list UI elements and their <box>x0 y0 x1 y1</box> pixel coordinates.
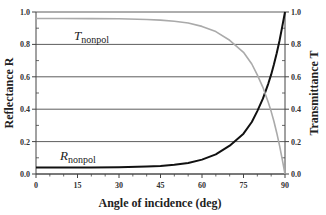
y-right-tick-label: 0.6 <box>291 73 301 82</box>
fresnel-chart: 0.00.20.40.60.81.00.00.20.40.60.81.00153… <box>0 0 326 215</box>
x-tick-label: 60 <box>198 181 206 190</box>
t-nonpol-label: Tnonpol <box>74 28 109 45</box>
y-left-tick-label: 0.8 <box>20 40 30 49</box>
y-left-tick-label: 0.6 <box>20 73 30 82</box>
x-tick-label: 0 <box>34 181 38 190</box>
y-left-tick-label: 0.2 <box>20 138 30 147</box>
x-tick-label: 90 <box>281 181 289 190</box>
y-right-tick-label: 0.8 <box>291 40 301 49</box>
x-axis-title: Angle of incidence (deg) <box>99 196 222 210</box>
x-tick-label: 75 <box>240 181 248 190</box>
r-nonpol-label: Rnonpol <box>59 148 96 165</box>
y-left-tick-label: 1.0 <box>20 8 30 17</box>
y-axis-left-title: Reflectance R <box>2 57 16 128</box>
y-right-tick-label: 1.0 <box>291 8 301 17</box>
y-right-tick-label: 0.0 <box>291 170 301 179</box>
y-right-tick-label: 0.2 <box>291 138 301 147</box>
y-axis-right-title: Transmittance T <box>307 50 321 135</box>
y-left-tick-label: 0.4 <box>20 105 30 114</box>
x-tick-label: 45 <box>157 181 165 190</box>
y-left-tick-label: 0.0 <box>20 170 30 179</box>
y-right-tick-label: 0.4 <box>291 105 301 114</box>
x-tick-label: 15 <box>74 181 82 190</box>
x-tick-label: 30 <box>115 181 123 190</box>
